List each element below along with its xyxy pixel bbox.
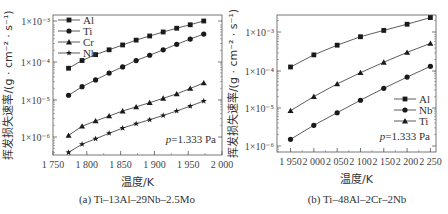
nb-marker: [428, 64, 433, 69]
y-axis-label: 挥发损失速率/(g · cm⁻² · s⁻¹): [1, 10, 15, 159]
nb-marker: [404, 75, 409, 80]
x-tick-label: 1 750: [42, 159, 65, 170]
cr-marker: [79, 123, 85, 128]
nb-marker: [288, 137, 293, 142]
legend-al-marker: [403, 97, 408, 102]
legend-label: Ti: [419, 115, 428, 127]
legend-al-marker: [67, 18, 72, 23]
ti-marker: [174, 42, 179, 47]
nb-marker: [147, 117, 153, 123]
ti-marker: [188, 37, 193, 42]
legend: AlTiCrNb: [58, 14, 97, 59]
x-axis-label: 温度/K: [340, 172, 374, 186]
pressure-annotation: p=1.333 Pa: [165, 133, 216, 145]
panel-caption: (b) Ti–48Al–2Cr–2Nb: [308, 193, 407, 206]
al-marker: [358, 34, 363, 39]
al-marker: [120, 43, 125, 48]
ti-marker: [134, 58, 139, 63]
ti-marker: [311, 94, 317, 99]
ti-marker: [66, 93, 71, 98]
nb-marker: [358, 98, 363, 103]
x-tick-label: 1 850: [109, 159, 132, 170]
chart-panel-a: 1×10⁻³1×10⁻⁴1×10⁻⁵1×10⁻⁶1 7501 8001 8501…: [1, 10, 233, 206]
cr-marker: [187, 85, 193, 90]
nb-marker: [66, 149, 72, 155]
cr-marker: [93, 118, 99, 123]
ti-marker: [120, 64, 125, 69]
al-marker: [428, 15, 433, 20]
x-tick-label: 2 200: [396, 156, 419, 167]
nb-marker: [187, 103, 193, 109]
ti-marker: [147, 53, 152, 58]
y-tick-label: 1×10⁻³: [245, 27, 274, 38]
legend: AlNbTi: [394, 93, 433, 127]
y-tick-label: 1×10⁻⁴: [245, 66, 275, 77]
legend-label: Nb: [83, 47, 97, 59]
al-marker: [107, 47, 112, 52]
ti-marker: [288, 108, 294, 113]
chart-panel-b: 1×10⁻³1×10⁻⁴1×10⁻⁵1×10⁻⁶1 9502 0002 0502…: [226, 9, 442, 206]
nb-marker: [174, 108, 180, 114]
ti-marker: [404, 49, 410, 54]
nb-marker: [133, 121, 139, 127]
ti-marker: [357, 70, 363, 75]
y-axis-label: 挥发损失速率/(g · cm⁻² · s⁻¹): [226, 9, 240, 158]
ti-marker: [201, 31, 206, 36]
al-marker: [188, 22, 193, 27]
x-axis-label: 温度/K: [121, 175, 155, 189]
y-tick-label: 1×10⁻⁵: [21, 95, 50, 106]
al-marker: [405, 22, 410, 27]
cr-marker: [201, 80, 207, 85]
al-marker: [174, 26, 179, 31]
ti-marker: [334, 81, 340, 86]
y-tick-label: 1×10⁻⁶: [21, 132, 51, 143]
x-tick-label: 1 950: [177, 159, 200, 170]
y-tick-label: 1×10⁻³: [21, 16, 50, 27]
x-tick-label: 2 100: [349, 156, 372, 167]
panel-caption: (a) Ti–13Al–29Nb–2.5Mo: [79, 193, 196, 206]
x-tick-label: 2 250: [419, 156, 442, 167]
nb-marker: [93, 136, 99, 142]
nb-marker: [381, 86, 386, 91]
nb-marker: [335, 110, 340, 115]
cr-marker: [174, 91, 180, 96]
nb-marker: [120, 125, 126, 131]
pressure-annotation: p=1.333 Pa: [379, 130, 430, 142]
x-tick-label: 1 900: [143, 159, 166, 170]
al-marker: [147, 34, 152, 39]
ti-marker: [93, 77, 98, 82]
nb-marker: [311, 123, 316, 128]
al-marker: [66, 66, 71, 71]
x-tick-label: 2 000: [211, 159, 234, 170]
al-marker: [161, 30, 166, 35]
legend-nb-marker: [66, 50, 72, 56]
ti-marker: [107, 70, 112, 75]
x-tick-label: 2 150: [373, 156, 396, 167]
ti-marker: [161, 47, 166, 52]
nb-marker: [106, 130, 112, 136]
nb-marker: [160, 112, 166, 118]
nb-marker: [201, 98, 207, 104]
ti-marker: [427, 40, 433, 45]
x-tick-label: 2 000: [303, 156, 326, 167]
figure: 1×10⁻³1×10⁻⁴1×10⁻⁵1×10⁻⁶1 7501 8001 8501…: [0, 0, 448, 214]
al-marker: [381, 28, 386, 33]
cr-marker: [66, 132, 72, 137]
y-tick-label: 1×10⁻⁶: [245, 141, 275, 152]
al-marker: [134, 38, 139, 43]
ti-marker: [79, 84, 84, 89]
al-marker: [201, 19, 206, 24]
x-tick-label: 1 800: [76, 159, 99, 170]
al-marker: [335, 43, 340, 48]
legend-ti-marker: [66, 28, 71, 33]
ti-marker: [381, 59, 387, 64]
series-cr: [66, 80, 207, 138]
x-tick-label: 2 050: [326, 156, 349, 167]
x-tick-label: 1 950: [279, 156, 302, 167]
legend-nb-marker: [402, 107, 407, 112]
series-al: [288, 15, 433, 69]
al-marker: [311, 52, 316, 57]
y-tick-label: 1×10⁻⁴: [21, 57, 51, 68]
y-tick-label: 1×10⁻⁵: [245, 103, 274, 114]
al-marker: [288, 65, 293, 70]
